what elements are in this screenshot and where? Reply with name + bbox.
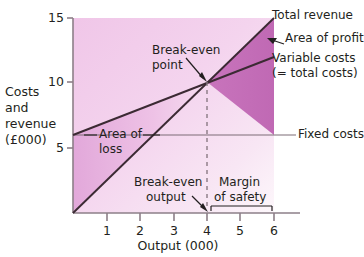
x-tick-label-3: 3	[164, 224, 184, 238]
break-even-point-label-line-1: Break-even	[152, 44, 220, 57]
y-axis-title-line-2: and	[5, 101, 29, 115]
y-axis-title-line-3: revenue	[5, 117, 56, 131]
x-tick-label-2: 2	[130, 224, 150, 238]
area-of-loss-label-line-1: Area of	[99, 128, 142, 141]
area-of-loss-label-line-2: loss	[99, 143, 122, 156]
margin-of-safety-label-line-1: Margin	[219, 176, 260, 189]
y-tick-label-15: 15	[38, 11, 64, 25]
y-tick-label-10: 10	[38, 75, 64, 89]
fixed-costs-label: Fixed costs	[298, 128, 364, 141]
x-tick-label-5: 5	[230, 224, 250, 238]
variable-costs-label-line-2: (= total costs)	[272, 67, 358, 80]
margin-of-safety-label-line-2: of safety	[214, 191, 266, 204]
x-tick-label-6: 6	[264, 224, 284, 238]
break-even-point-label-line-2: point	[152, 59, 183, 72]
break-even-output-label-line-1: Break-even	[134, 176, 202, 189]
x-tick-label-4: 4	[197, 224, 217, 238]
total-revenue-label: Total revenue	[272, 9, 353, 22]
variable-costs-label-line-1: Variable costs	[272, 52, 356, 65]
y-axis-title-line-1: Costs	[5, 85, 39, 99]
x-tick-label-1: 1	[97, 224, 117, 238]
break-even-output-label-line-2: output	[146, 191, 186, 204]
y-axis-title-line-4: (£000)	[5, 133, 47, 147]
x-axis-title: Output (000)	[118, 239, 238, 253]
area-of-profit-label: Area of profit	[285, 32, 364, 45]
